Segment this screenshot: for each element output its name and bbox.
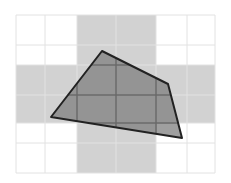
diagram-canvas bbox=[0, 0, 231, 183]
grid-diagram bbox=[0, 0, 231, 183]
